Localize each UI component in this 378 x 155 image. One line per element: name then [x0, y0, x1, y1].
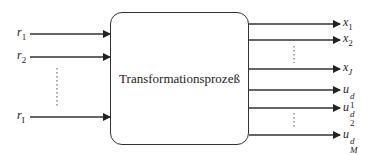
output-label-xJ: xJ [343, 61, 352, 78]
process-block: Transformationsprozeß [110, 12, 249, 145]
output-label-x2: x2 [343, 32, 353, 49]
input-label-r2: r2 [17, 49, 26, 66]
input-label-r1: r1 [17, 26, 26, 43]
output-label-uM: udM [343, 128, 358, 155]
output-label-u2: ud2 [343, 101, 355, 128]
input-label-rI: rI [17, 109, 25, 126]
process-label: Transformationsprozeß [119, 71, 240, 87]
